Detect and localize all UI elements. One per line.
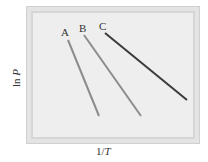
label-b: B <box>79 22 86 34</box>
line-c <box>105 33 187 100</box>
y-axis-label: ln P <box>10 63 26 93</box>
label-c: C <box>99 20 106 32</box>
plot-lines: A B C <box>0 0 208 162</box>
x-axis-label: 1/T <box>96 145 111 157</box>
line-b <box>84 35 141 116</box>
label-a: A <box>61 26 69 38</box>
